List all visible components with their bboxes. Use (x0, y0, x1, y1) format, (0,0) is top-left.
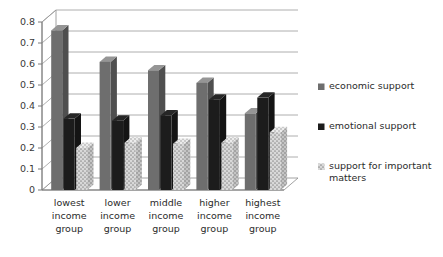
bar (221, 137, 238, 190)
chart-container: 0.80.70.60.50.40.30.20.10 lowestincomegr… (0, 0, 443, 257)
x-axis-category-labels: lowestincomegrouplowerincomegroupmiddlei… (52, 197, 281, 234)
y-axis-tick-label: 0.2 (20, 142, 35, 153)
y-axis-tick-label: 0.4 (20, 100, 35, 111)
x-axis-category-label: income (52, 210, 87, 221)
y-axis-tick-label: 0.7 (20, 37, 35, 48)
x-axis-category-label: income (197, 210, 232, 221)
x-axis-category-label: income (100, 210, 135, 221)
chart-legend: economic supportemotional supportsupport… (318, 80, 432, 183)
bar (270, 127, 287, 190)
bar-chart: 0.80.70.60.50.40.30.20.10 lowestincomegr… (0, 0, 443, 257)
legend-label: emotional support (329, 120, 416, 131)
y-axis-tick-label: 0 (29, 184, 35, 195)
y-axis-tick-label: 0.5 (20, 79, 35, 90)
y-axis-tick-label: 0.8 (20, 16, 35, 27)
x-axis-category-label: higher (199, 197, 230, 208)
x-axis-category-label: highest (245, 197, 281, 208)
legend-swatch (318, 84, 325, 91)
x-axis-category-label: group (104, 223, 132, 234)
x-axis-category-label: group (201, 223, 229, 234)
x-axis-category-label: lower (105, 197, 131, 208)
x-axis-category-label: income (149, 210, 184, 221)
x-axis-category-label: middle (150, 197, 183, 208)
y-axis-tick-label: 0.6 (20, 58, 35, 69)
bar (125, 137, 142, 190)
x-axis-category-label: group (249, 223, 277, 234)
y-axis-tick-label: 0.3 (20, 121, 35, 132)
y-axis-tick-label: 0.1 (20, 163, 35, 174)
legend-swatch (318, 124, 325, 131)
legend-swatch (318, 164, 325, 171)
x-axis-category-label: lowest (54, 197, 85, 208)
legend-label: support for important (329, 160, 432, 171)
x-axis-category-label: group (55, 223, 83, 234)
legend-label: economic support (329, 80, 415, 91)
bar (76, 143, 93, 190)
y-axis-ticks: 0.80.70.60.50.40.30.20.10 (20, 16, 42, 195)
x-axis-category-label: income (245, 210, 280, 221)
legend-label: matters (329, 172, 366, 183)
x-axis-category-label: group (152, 223, 180, 234)
bar (173, 138, 190, 190)
